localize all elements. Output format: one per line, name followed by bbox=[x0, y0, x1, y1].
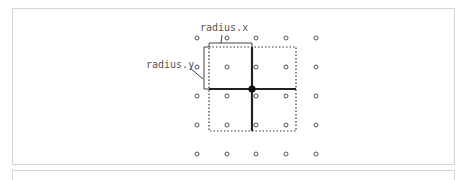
grid-dot bbox=[254, 94, 258, 98]
grid-dot bbox=[225, 65, 229, 69]
grid-dot bbox=[254, 36, 258, 40]
grid-dot bbox=[284, 123, 288, 127]
grid-dot bbox=[254, 152, 258, 156]
grid-dot bbox=[254, 65, 258, 69]
grid-dot bbox=[225, 94, 229, 98]
radius-y-label: radius.y bbox=[146, 59, 194, 70]
grid-dot bbox=[314, 94, 318, 98]
center-point-icon bbox=[248, 85, 255, 92]
grid-dot bbox=[225, 36, 229, 40]
grid-dot bbox=[254, 123, 258, 127]
grid-dot bbox=[225, 152, 229, 156]
grid-dot bbox=[314, 65, 318, 69]
grid-dot bbox=[314, 123, 318, 127]
sample-grid bbox=[195, 36, 318, 156]
kernel-radius-diagram: radius.x radius.y bbox=[0, 0, 467, 180]
grid-dot bbox=[195, 152, 199, 156]
grid-dot bbox=[195, 65, 199, 69]
grid-dot bbox=[284, 152, 288, 156]
radius-x-bracket bbox=[209, 35, 252, 47]
grid-dot bbox=[314, 152, 318, 156]
grid-dot bbox=[314, 36, 318, 40]
grid-dot bbox=[195, 94, 199, 98]
grid-dot bbox=[284, 36, 288, 40]
grid-dot bbox=[284, 94, 288, 98]
grid-dot bbox=[225, 123, 229, 127]
grid-dot bbox=[284, 65, 288, 69]
radius-x-label: radius.x bbox=[200, 22, 248, 33]
grid-dot bbox=[195, 123, 199, 127]
grid-dot bbox=[195, 36, 199, 40]
